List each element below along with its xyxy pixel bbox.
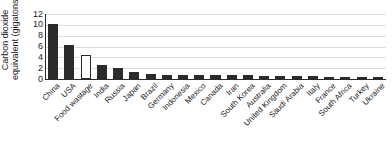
bar [113, 68, 123, 79]
y-axis-title: Carbon dioxide equivalent (gigatons) [0, 0, 20, 80]
bar [178, 75, 188, 79]
bar [340, 77, 350, 79]
y-axis-tick-label: 12 [23, 10, 43, 19]
bar [227, 75, 237, 79]
bar [64, 45, 74, 79]
chart-figure: Carbon dioxide equivalent (gigatons) 024… [0, 0, 392, 154]
y-axis-tick-label: 10 [23, 20, 43, 29]
y-axis-tick-label: 8 [23, 31, 43, 40]
bar [146, 74, 156, 79]
bar [357, 77, 367, 79]
y-axis-tick-label: 4 [23, 53, 43, 62]
y-axis-tick-label: 6 [23, 42, 43, 51]
bar [259, 76, 269, 79]
bar [194, 75, 204, 79]
bar [97, 65, 107, 79]
bar [243, 75, 253, 79]
bar [275, 76, 285, 79]
bar [373, 77, 383, 79]
bar [81, 55, 91, 79]
y-axis-tick-label: 2 [23, 64, 43, 73]
bar [129, 72, 139, 79]
y-axis-title-line2: equivalent (gigatons) [10, 0, 20, 80]
bar [308, 76, 318, 79]
bar [324, 77, 334, 79]
y-axis-tick-label: 0 [23, 75, 43, 84]
bar [162, 75, 172, 79]
bar [292, 76, 302, 79]
x-axis-ticks: ChinaUSAFood wastageIndiaRussiaJapanBraz… [45, 80, 386, 154]
bar [210, 75, 220, 79]
bar-series [45, 14, 386, 79]
bar [48, 24, 58, 79]
y-axis-title-line1: Carbon dioxide [0, 10, 10, 71]
